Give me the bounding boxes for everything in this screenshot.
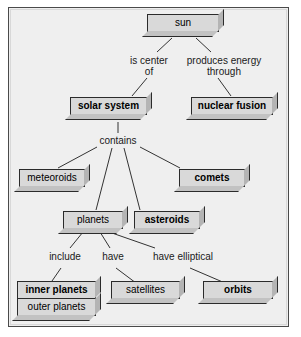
node-planets-label: planets	[73, 215, 113, 225]
node-orbits-label: orbits	[220, 285, 256, 295]
node-solar-system[interactable]: solar system	[70, 97, 147, 115]
node-comets[interactable]: comets	[179, 169, 245, 187]
link-label-have: have	[95, 252, 131, 263]
node-asteroids-label: asteroids	[141, 215, 193, 225]
line-include-to-inner-planets	[52, 268, 61, 281]
line-contains-to-comets	[140, 147, 180, 168]
line-sun-to-produces-energy	[196, 38, 211, 52]
link-label-is-center-of: is center of	[114, 56, 184, 77]
node-asteroids[interactable]: asteroids	[134, 211, 200, 229]
line-contains-to-asteroids	[124, 148, 140, 210]
node-outer-planets-label: outer planets	[24, 302, 90, 312]
link-label-have-elliptical: have elliptical	[141, 252, 225, 263]
line-is-center-of-to-solar-system	[132, 78, 147, 96]
concept-map-page: sun solar system nuclear fusion meteoroi…	[0, 0, 301, 337]
line-contains-to-planets	[96, 148, 112, 210]
node-orbits[interactable]: orbits	[203, 281, 273, 299]
line-planets-to-have-elliptical	[112, 233, 155, 248]
line-produces-energy-to-nuclear-fusion	[218, 78, 231, 96]
node-meteoroids[interactable]: meteoroids	[19, 169, 85, 187]
node-sun[interactable]: sun	[147, 14, 219, 32]
node-planets[interactable]: planets	[63, 211, 123, 229]
node-outer-planets[interactable]: outer planets	[17, 298, 96, 316]
node-solar-system-label: solar system	[74, 101, 143, 111]
link-label-produces-energy-through: produces energy through	[178, 56, 270, 77]
link-label-include: include	[40, 252, 90, 263]
node-sun-label: sun	[171, 18, 195, 28]
line-planets-to-have	[100, 232, 110, 248]
node-comets-label: comets	[190, 173, 233, 183]
node-satellites[interactable]: satellites	[111, 281, 180, 299]
node-satellites-label: satellites	[122, 285, 169, 295]
node-inner-planets-label: inner planets	[21, 285, 91, 295]
node-group-planet-types: inner planets outer planets	[17, 281, 96, 316]
link-label-contains: contains	[93, 136, 143, 147]
line-sun-to-is-center-of	[157, 38, 172, 52]
node-meteoroids-label: meteoroids	[23, 173, 80, 183]
node-nuclear-fusion-label: nuclear fusion	[194, 101, 270, 111]
node-inner-planets[interactable]: inner planets	[17, 281, 96, 299]
line-contains-to-meteoroids	[58, 147, 97, 168]
line-planets-to-include	[70, 232, 83, 248]
node-nuclear-fusion[interactable]: nuclear fusion	[191, 97, 273, 115]
